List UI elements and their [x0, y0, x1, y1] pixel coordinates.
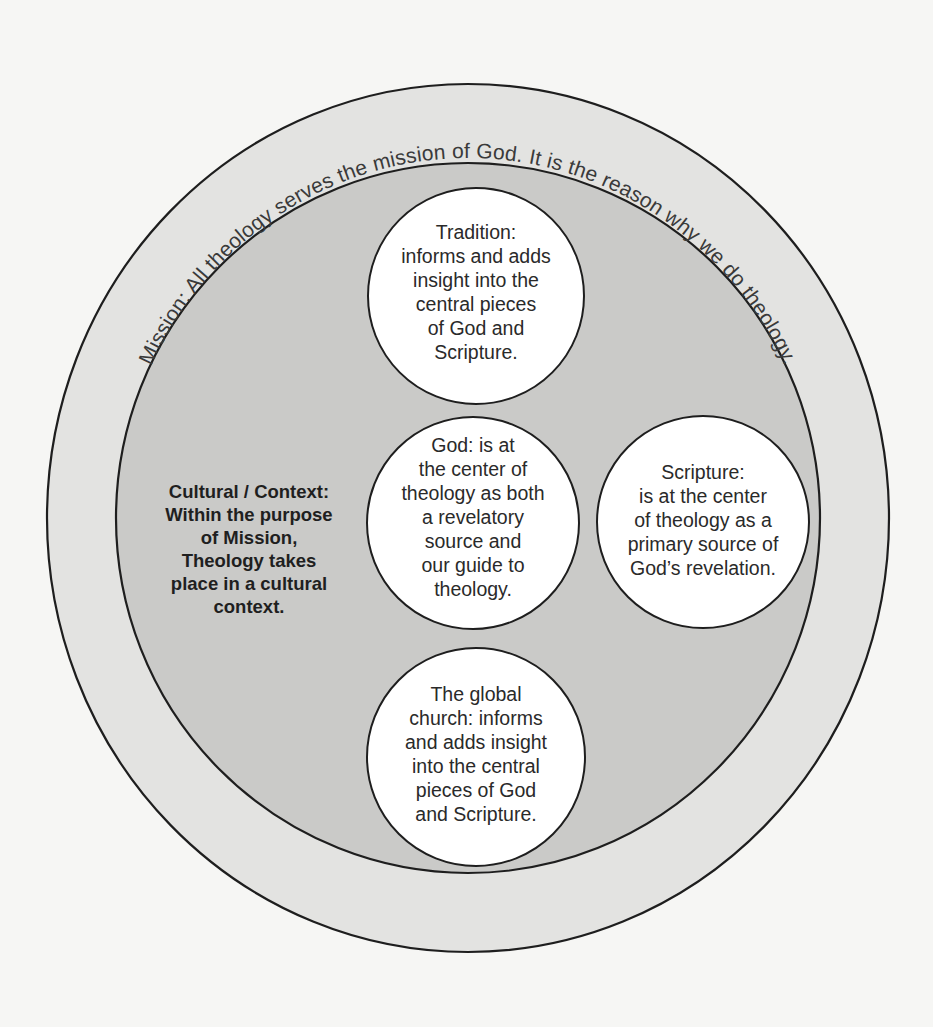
- scripture-text: Scripture: is at the center of theology …: [601, 460, 805, 580]
- text-line: informs and adds: [376, 244, 576, 268]
- text-line: Within the purpose: [134, 503, 364, 526]
- text-line: church: informs: [376, 706, 576, 730]
- text-line: and Scripture.: [376, 802, 576, 826]
- text-line: is at the center: [601, 484, 805, 508]
- text-line: our guide to: [373, 553, 573, 577]
- text-line: God’s revelation.: [601, 556, 805, 580]
- text-line: of Mission,: [134, 526, 364, 549]
- text-line: the center of: [373, 457, 573, 481]
- tradition-text: Tradition: informs and adds insight into…: [376, 220, 576, 364]
- text-line: and adds insight: [376, 730, 576, 754]
- text-line: pieces of God: [376, 778, 576, 802]
- text-line: of theology as a: [601, 508, 805, 532]
- text-line: Scripture.: [376, 340, 576, 364]
- text-line: God: is at: [373, 433, 573, 457]
- global-church-text: The global church: informs and adds insi…: [376, 682, 576, 826]
- text-line: source and: [373, 529, 573, 553]
- text-line: Tradition:: [376, 220, 576, 244]
- text-line: theology.: [373, 577, 573, 601]
- text-line: central pieces: [376, 292, 576, 316]
- god-text: God: is at the center of theology as bot…: [373, 433, 573, 601]
- text-line: of God and: [376, 316, 576, 340]
- text-line: The global: [376, 682, 576, 706]
- text-line: insight into the: [376, 268, 576, 292]
- text-line: primary source of: [601, 532, 805, 556]
- text-line: Scripture:: [601, 460, 805, 484]
- text-line: Theology takes: [134, 549, 364, 572]
- text-line: place in a cultural: [134, 572, 364, 595]
- text-line: into the central: [376, 754, 576, 778]
- text-line: theology as both: [373, 481, 573, 505]
- text-line: Cultural / Context:: [134, 480, 364, 503]
- text-line: context.: [134, 595, 364, 618]
- text-line: a revelatory: [373, 505, 573, 529]
- cultural-context-text: Cultural / Context: Within the purpose o…: [134, 480, 364, 618]
